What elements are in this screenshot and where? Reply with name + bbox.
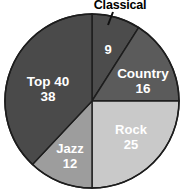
pie-label-name-jazz: Jazz xyxy=(56,141,84,156)
pie-chart-canvas: Classical9Country16Rock25Jazz12Top 4038 xyxy=(0,0,184,195)
pie-slice-layer xyxy=(5,14,179,188)
pie-label-name-classical: Classical xyxy=(94,0,146,12)
pie-chart-figure: Classical9Country16Rock25Jazz12Top 4038 xyxy=(0,0,184,195)
pie-label-value-rock: 25 xyxy=(124,137,138,152)
pie-label-value-top-40: 38 xyxy=(40,89,56,104)
pie-label-name-rock: Rock xyxy=(115,122,148,137)
pie-label-value-classical: 9 xyxy=(104,42,111,57)
pie-label-value-country: 16 xyxy=(135,81,151,96)
pie-label-value-jazz: 12 xyxy=(63,156,77,171)
pie-label-name-country: Country xyxy=(117,66,169,81)
pie-label-name-top-40: Top 40 xyxy=(27,74,70,89)
